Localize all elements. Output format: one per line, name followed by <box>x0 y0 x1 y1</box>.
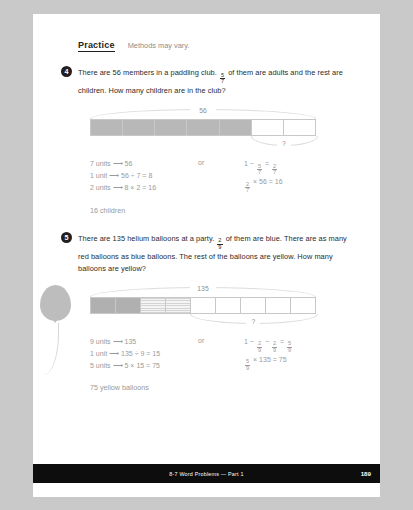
working-line: 1 unit ⟶ 135 ÷ 9 = 15 <box>90 348 198 360</box>
balloon-body-icon <box>40 285 71 321</box>
bar-model-total-label: 56 <box>190 107 216 114</box>
bar-model-unknown-brace: ? <box>90 314 316 327</box>
question-list: 4There are 56 members in a paddling club… <box>78 67 356 392</box>
working-line: 1 − 57 = 27 <box>244 158 283 176</box>
page-content: Practice Methods may vary. 4There are 56… <box>33 14 380 410</box>
fraction: 27 <box>245 182 250 194</box>
bar-model-unit <box>91 298 116 313</box>
fraction-denominator: 9 <box>245 365 250 372</box>
working-line: 59 × 135 = 75 <box>244 354 293 372</box>
bar-model-total-brace: 56 <box>90 108 316 119</box>
working-or-label: or <box>198 336 244 373</box>
working-out: 9 units ⟶ 1351 unit ⟶ 135 ÷ 9 = 155 unit… <box>90 336 356 373</box>
bar-model-bar <box>90 119 316 136</box>
fraction: 29 <box>257 341 262 353</box>
fraction: 57 <box>257 164 262 176</box>
bar-model-unknown-label: ? <box>277 140 291 147</box>
bar-model-unit <box>252 120 284 135</box>
page-footer: 8-7 Word Problems — Part 1 189 <box>33 464 380 483</box>
bar-model-unit <box>141 298 166 313</box>
bar-model-unit <box>291 298 315 313</box>
fraction: 27 <box>272 164 277 176</box>
practice-header: Practice Methods may vary. <box>78 40 356 52</box>
bar-model-unit <box>166 298 191 313</box>
fraction: 29 <box>217 238 222 250</box>
bar-model-unit <box>116 298 141 313</box>
fraction: 59 <box>245 359 250 371</box>
bar-model: 56? <box>90 108 316 149</box>
working-fraction-method: 1 − 29 − 29 = 5959 × 135 = 75 <box>244 336 293 373</box>
fraction: 59 <box>287 341 292 353</box>
fraction: 57 <box>220 73 225 85</box>
working-or-label: or <box>198 158 244 195</box>
bar-model-unit <box>220 120 252 135</box>
document-page: Practice Methods may vary. 4There are 56… <box>33 14 380 497</box>
working-unitary-method: 7 units ⟶ 561 unit ⟶ 56 ÷ 7 = 82 units ⟶… <box>90 158 198 195</box>
fraction-denominator: 9 <box>257 347 262 354</box>
bar-model-unit <box>284 120 315 135</box>
question-number-badge: 5 <box>61 232 72 243</box>
answer-statement: 75 yellow balloons <box>90 383 356 392</box>
bar-model-unit <box>123 120 155 135</box>
question-number-badge: 4 <box>61 66 72 77</box>
question-text: There are 56 members in a paddling club.… <box>78 67 356 97</box>
bar-model-total-brace: 135 <box>90 286 316 297</box>
page-number: 189 <box>361 464 371 483</box>
bar-model-unit <box>155 120 187 135</box>
working-line: 1 − 29 − 29 = 59 <box>244 336 293 354</box>
question-5: 5There are 135 helium balloons at a part… <box>78 233 356 393</box>
fraction-denominator: 9 <box>217 244 222 251</box>
fraction: 29 <box>272 341 277 353</box>
working-line: 5 units ⟶ 5 × 15 = 75 <box>90 360 198 372</box>
fraction-denominator: 7 <box>257 169 262 176</box>
bar-model-unknown-brace: ? <box>90 136 316 149</box>
fraction-denominator: 9 <box>272 347 277 354</box>
working-line: 27 × 56 = 16 <box>244 176 283 194</box>
answer-statement: 16 children <box>90 206 356 215</box>
bar-model-unit <box>191 298 216 313</box>
methods-note: Methods may vary. <box>128 41 190 50</box>
bar-model: 135? <box>90 286 316 327</box>
question-text: There are 135 helium balloons at a party… <box>78 233 356 275</box>
working-fraction-method: 1 − 57 = 2727 × 56 = 16 <box>244 158 283 195</box>
question-4: 4There are 56 members in a paddling club… <box>78 67 356 215</box>
footer-lesson-title: 8-7 Word Problems — Part 1 <box>33 464 380 483</box>
fraction-denominator: 9 <box>287 347 292 354</box>
bar-model-unit <box>266 298 291 313</box>
bar-model-unit <box>187 120 219 135</box>
page-title: Practice <box>78 40 115 52</box>
balloon-string-icon <box>40 323 59 375</box>
fraction-denominator: 7 <box>220 78 225 85</box>
working-out: 7 units ⟶ 561 unit ⟶ 56 ÷ 7 = 82 units ⟶… <box>90 158 356 195</box>
fraction-denominator: 7 <box>272 169 277 176</box>
bar-model-unit <box>241 298 266 313</box>
bar-model-total-label: 135 <box>190 285 216 292</box>
bar-model-bar <box>90 297 316 314</box>
bar-model-unknown-label: ? <box>246 318 260 325</box>
working-unitary-method: 9 units ⟶ 1351 unit ⟶ 135 ÷ 9 = 155 unit… <box>90 336 198 373</box>
balloon-illustration-icon <box>36 285 82 377</box>
working-line: 9 units ⟶ 135 <box>90 336 198 348</box>
bar-model-unit <box>216 298 241 313</box>
fraction-denominator: 7 <box>245 187 250 194</box>
bar-model-unit <box>91 120 123 135</box>
working-line: 7 units ⟶ 56 <box>90 158 198 170</box>
working-line: 1 unit ⟶ 56 ÷ 7 = 8 <box>90 170 198 182</box>
working-line: 2 units ⟶ 8 × 2 = 16 <box>90 182 198 194</box>
